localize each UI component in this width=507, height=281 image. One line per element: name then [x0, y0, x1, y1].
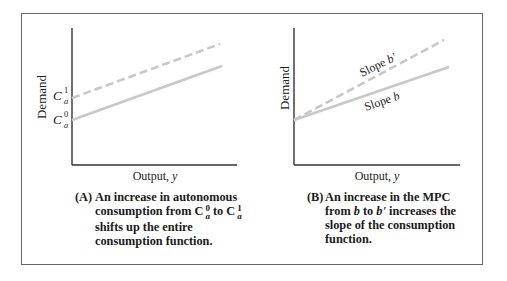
panel-a-caption-line-3: shifts up the entire: [95, 220, 275, 234]
panel-b-caption-line-4: function.: [325, 232, 477, 246]
panel-a-ylabel: Demand: [34, 74, 49, 119]
panel-a-tick-c1-sup: 1: [64, 85, 68, 95]
panel-a-dashed-line: [72, 44, 220, 98]
panel-b-slope-b-label: Slope b: [362, 89, 401, 114]
panel-a-tick-c1-sub: a: [64, 96, 68, 106]
panel-b-slope-bprime-label: Slope b': [357, 50, 398, 80]
panel-a-tick-c0-sup: 0: [64, 109, 68, 119]
panel-b-caption-line-2: from b to b' increases the: [325, 204, 477, 218]
panel-a-xlabel: Output, y: [133, 169, 178, 183]
panel-b-caption: (B) An increase in the MPC from b to b' …: [307, 190, 477, 246]
panel-a-tick-c1: C: [53, 88, 62, 103]
panel-a-tick-c0-sub: a: [64, 120, 68, 130]
panel-b-chart: Demand Slope b' Slope b Output, y: [277, 28, 460, 183]
panel-b-caption-line-1: An increase in the MPC: [325, 190, 477, 204]
panel-a-tick-c0: C: [53, 112, 62, 127]
panel-b-xlabel: Output, y: [355, 169, 400, 183]
panel-a-chart: Demand C 1 a C 0 a Output, y: [34, 28, 237, 183]
panel-b-caption-tag: (B): [307, 190, 323, 204]
panel-a-caption: (A) An increase in autonomous consumptio…: [75, 190, 275, 248]
panel-b-caption-line-3: slope of the consumption: [325, 218, 477, 232]
panel-a-solid-line: [72, 66, 222, 120]
panel-b-ylabel: Demand: [277, 65, 292, 110]
panel-a-caption-tag: (A): [75, 190, 92, 204]
panel-a-caption-line-4: consumption function.: [95, 234, 275, 248]
panel-a-caption-line-2: consumption from C0a to C1a: [95, 204, 275, 220]
panel-a-caption-line-1: An increase in autonomous: [95, 190, 275, 204]
